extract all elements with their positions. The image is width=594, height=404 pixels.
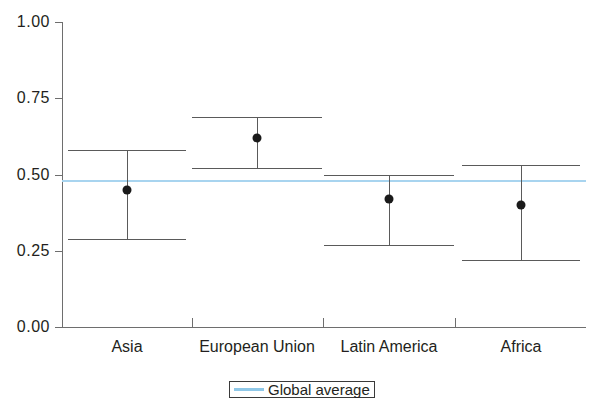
x-tick-label-asia: Asia xyxy=(111,338,142,356)
y-tick-label-0.75: 0.75 xyxy=(0,89,50,107)
data-point-marker xyxy=(385,194,394,203)
error-bar-whisker xyxy=(257,117,258,169)
y-axis-line xyxy=(62,22,63,328)
error-bar-cap-lower xyxy=(324,245,454,246)
y-tick-0.75 xyxy=(55,98,62,99)
y-tick-1.00 xyxy=(55,22,62,23)
legend-label-global-average: Global average xyxy=(268,382,370,397)
x-tick-label-latin-america: Latin America xyxy=(341,338,438,356)
x-tick-label-european-union: European Union xyxy=(199,338,315,356)
x-tick-sep-2 xyxy=(323,318,324,327)
error-bar-cap-upper xyxy=(192,117,322,118)
x-tick-label-africa: Africa xyxy=(501,338,542,356)
error-bar-cap-lower xyxy=(192,168,322,169)
error-bar-cap-upper xyxy=(462,165,580,166)
y-tick-label-0.25: 0.25 xyxy=(0,242,50,260)
error-bar-cap-upper xyxy=(68,150,186,151)
error-bar-whisker xyxy=(389,175,390,245)
data-point-marker xyxy=(517,201,526,210)
global-average-reference-line xyxy=(62,180,586,182)
data-point-marker xyxy=(253,133,262,142)
data-point-marker xyxy=(123,185,132,194)
y-tick-0.00 xyxy=(55,327,62,328)
error-bar-cap-upper xyxy=(324,175,454,176)
x-axis-line xyxy=(62,327,586,328)
error-bar-cap-lower xyxy=(68,239,186,240)
legend: Global average xyxy=(229,381,375,398)
error-bar-cap-lower xyxy=(462,260,580,261)
y-tick-label-0.50: 0.50 xyxy=(0,166,50,184)
x-tick-sep-3 xyxy=(455,318,456,327)
x-tick-sep-1 xyxy=(192,318,193,327)
legend-swatch-global-average-icon xyxy=(234,388,264,391)
error-bar-whisker xyxy=(127,150,128,238)
y-tick-0.50 xyxy=(55,175,62,176)
y-tick-0.25 xyxy=(55,251,62,252)
y-tick-label-0.00: 0.00 xyxy=(0,318,50,336)
error-bar-chart: 1.00 0.75 0.50 0.25 0.00 Asia European U… xyxy=(0,0,594,404)
y-tick-label-1.00: 1.00 xyxy=(0,13,50,31)
error-bar-whisker xyxy=(521,165,522,260)
